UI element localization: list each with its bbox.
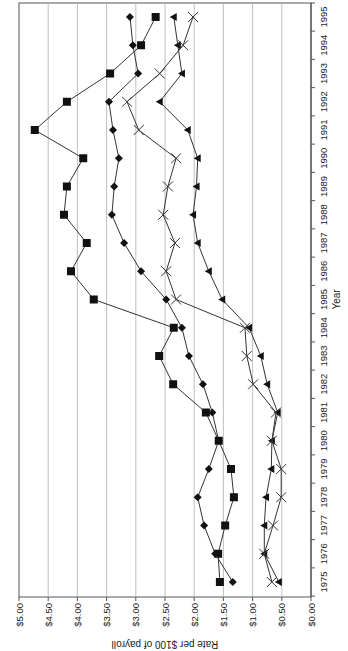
year-tick-label: 1985 bbox=[318, 289, 329, 310]
year-tick-label: 1981 bbox=[318, 402, 329, 423]
rate-tick-label: $3.00 bbox=[130, 603, 141, 627]
year-axis-title: Year bbox=[331, 289, 342, 310]
rate-tick-label: $3.50 bbox=[101, 603, 112, 627]
square-marker bbox=[221, 522, 229, 530]
year-tick-label: 1982 bbox=[318, 374, 329, 395]
rate-axis-labels: $0.00$0.50$1.00$1.50$2.00$2.50$3.00$3.50… bbox=[14, 603, 317, 627]
year-tick-label: 1987 bbox=[318, 232, 329, 253]
year-tick-label: 1975 bbox=[318, 571, 329, 592]
year-tick-label: 1984 bbox=[318, 317, 329, 338]
year-tick-label: 1979 bbox=[318, 458, 329, 479]
year-axis-ticks bbox=[311, 3, 315, 597]
rate-tick-label: $1.00 bbox=[247, 603, 258, 627]
year-tick-label: 1978 bbox=[318, 487, 329, 508]
year-tick-label: 1994 bbox=[318, 35, 329, 56]
year-axis-labels: 1975197619771978197919801981198219831984… bbox=[318, 6, 329, 592]
square-marker bbox=[227, 465, 235, 473]
rate-tick-label: $0.50 bbox=[276, 603, 287, 627]
square-marker bbox=[63, 183, 71, 191]
square-marker bbox=[90, 296, 98, 304]
square-marker bbox=[31, 126, 39, 134]
square-marker bbox=[67, 267, 75, 275]
year-tick-label: 1989 bbox=[318, 176, 329, 197]
rate-tick-label: $4.00 bbox=[72, 603, 83, 627]
year-tick-label: 1992 bbox=[318, 91, 329, 112]
square-marker bbox=[230, 493, 238, 501]
square-marker bbox=[79, 154, 87, 162]
square-marker bbox=[152, 13, 160, 21]
square-marker bbox=[60, 211, 68, 219]
year-tick-label: 1990 bbox=[318, 148, 329, 169]
rate-tick-label: $4.50 bbox=[43, 603, 54, 627]
square-marker bbox=[155, 352, 163, 360]
square-marker bbox=[170, 324, 178, 332]
year-tick-label: 1988 bbox=[318, 204, 329, 225]
rate-tick-label: $5.00 bbox=[14, 603, 25, 627]
year-tick-label: 1991 bbox=[318, 119, 329, 140]
rate-tick-label: $1.50 bbox=[218, 603, 229, 627]
year-tick-label: 1995 bbox=[318, 6, 329, 27]
year-tick-label: 1983 bbox=[318, 345, 329, 366]
square-marker bbox=[63, 98, 71, 106]
square-marker bbox=[106, 70, 114, 78]
rate-tick-label: $2.00 bbox=[189, 603, 200, 627]
rate-tick-label: $0.00 bbox=[306, 603, 317, 627]
square-marker bbox=[83, 239, 91, 247]
year-tick-label: 1993 bbox=[318, 63, 329, 84]
year-tick-label: 1977 bbox=[318, 515, 329, 536]
rate-axis-title: Rate per $100 of payroll bbox=[112, 639, 219, 650]
year-tick-label: 1976 bbox=[318, 543, 329, 564]
square-marker bbox=[169, 380, 177, 388]
year-tick-label: 1986 bbox=[318, 261, 329, 282]
rate-tick-label: $2.50 bbox=[160, 603, 171, 627]
square-marker bbox=[216, 578, 224, 586]
square-marker bbox=[137, 41, 145, 49]
rate-line-chart: $0.00$0.50$1.00$1.50$2.00$2.50$3.00$3.50… bbox=[0, 0, 348, 651]
year-tick-label: 1980 bbox=[318, 430, 329, 451]
